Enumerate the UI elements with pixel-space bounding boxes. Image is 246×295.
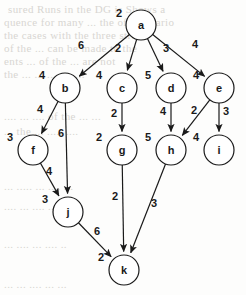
edge-weight-b-f: 4 — [37, 103, 44, 115]
edge-h-to-k — [131, 164, 166, 253]
node-label-k: k — [121, 264, 128, 276]
dag-diagram: 62344624234236a2b4c4d5e4f3g2h5i4j3k2 — [0, 0, 246, 295]
edge-a-to-d — [147, 39, 163, 72]
node-weight-g: 2 — [96, 131, 102, 143]
node-label-a: a — [138, 19, 145, 31]
edge-weight-a-c: 2 — [115, 42, 121, 54]
node-label-g: g — [119, 144, 126, 156]
node-label-c: c — [119, 82, 125, 94]
node-label-b: b — [62, 82, 69, 94]
edge-weight-d-h: 4 — [160, 105, 167, 117]
edge-weight-f-j: 4 — [46, 165, 53, 177]
edge-weight-b-j: 6 — [58, 127, 64, 139]
node-weight-k: 2 — [98, 251, 104, 263]
edge-a-to-c — [127, 39, 136, 70]
edge-weight-g-k: 2 — [112, 190, 118, 202]
node-weight-a: 2 — [116, 7, 122, 19]
node-weight-c: 4 — [96, 69, 103, 81]
node-weight-d: 5 — [145, 69, 151, 81]
node-label-d: d — [168, 82, 175, 94]
node-weight-j: 3 — [42, 193, 48, 205]
node-label-f: f — [31, 144, 35, 156]
edge-weight-e-i: 3 — [223, 105, 229, 117]
node-label-i: i — [217, 144, 220, 156]
edge-weight-j-k: 6 — [94, 225, 100, 237]
edge-weight-a-b: 6 — [78, 39, 84, 51]
edge-g-to-k — [122, 165, 123, 252]
edge-weight-h-k: 3 — [151, 197, 157, 209]
edge-b-to-j — [65, 103, 67, 194]
node-label-j: j — [65, 206, 69, 218]
edge-weight-e-h: 2 — [191, 104, 197, 116]
node-weight-b: 4 — [39, 69, 46, 81]
node-label-h: h — [168, 144, 175, 156]
figure-canvas: sured Runs in the DG is Shows aquence fo… — [0, 0, 246, 295]
edge-weight-c-g: 2 — [111, 107, 117, 119]
edge-b-to-f — [41, 101, 58, 133]
node-label-e: e — [216, 82, 222, 94]
node-weight-h: 5 — [145, 131, 151, 143]
nodes-layer — [18, 10, 234, 285]
edge-weight-a-d: 3 — [163, 42, 169, 54]
node-weight-i: 4 — [193, 131, 200, 143]
node-weight-f: 3 — [7, 131, 13, 143]
edge-a-to-b — [79, 35, 129, 77]
node-weight-e: 4 — [193, 69, 200, 81]
edge-weight-a-e: 4 — [192, 38, 199, 50]
